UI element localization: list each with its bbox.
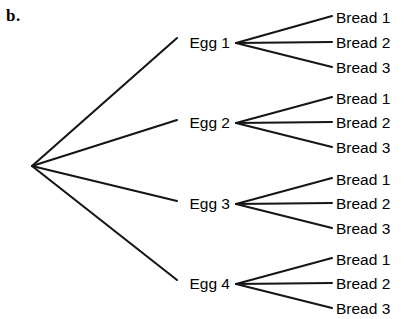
branch-egg-4-bread-2 xyxy=(236,283,332,284)
branch-root-egg-1 xyxy=(32,38,177,166)
branch-egg-1-bread-2 xyxy=(236,42,332,43)
branch-egg-2-bread-2 xyxy=(236,122,332,123)
node-egg-3-bread-1: Bread 1 xyxy=(336,172,390,188)
node-egg-2-bread-1: Bread 1 xyxy=(336,91,390,107)
branch-egg-1-bread-3 xyxy=(236,43,332,67)
node-egg-4-bread-2: Bread 2 xyxy=(336,276,390,292)
node-egg-4: Egg 4 xyxy=(180,276,230,292)
node-egg-4-bread-3: Bread 3 xyxy=(336,301,390,317)
node-egg-1-bread-1: Bread 1 xyxy=(336,10,390,26)
panel-label: b. xyxy=(6,6,21,26)
branch-egg-2-bread-1 xyxy=(236,97,332,123)
node-egg-2: Egg 2 xyxy=(180,115,230,131)
node-egg-1-bread-3: Bread 3 xyxy=(336,60,390,76)
node-egg-1-bread-2: Bread 2 xyxy=(336,35,390,51)
node-egg-3: Egg 3 xyxy=(180,196,230,212)
branch-egg-3-bread-3 xyxy=(236,204,332,228)
node-egg-1: Egg 1 xyxy=(180,35,230,51)
branch-egg-4-bread-1 xyxy=(236,258,332,284)
tree-diagram-canvas: b. Egg 1 Egg 2 Egg 3 Egg 4 Bread 1 Bread… xyxy=(0,0,411,319)
node-egg-3-bread-2: Bread 2 xyxy=(336,196,390,212)
node-egg-4-bread-1: Bread 1 xyxy=(336,252,390,268)
branch-root-egg-2 xyxy=(32,120,177,166)
node-egg-2-bread-3: Bread 3 xyxy=(336,140,390,156)
node-egg-3-bread-3: Bread 3 xyxy=(336,221,390,237)
node-egg-2-bread-2: Bread 2 xyxy=(336,115,390,131)
branch-egg-2-bread-3 xyxy=(236,123,332,147)
branch-egg-1-bread-1 xyxy=(236,16,332,43)
branch-egg-3-bread-1 xyxy=(236,178,332,204)
branch-egg-3-bread-2 xyxy=(236,203,332,204)
branch-egg-4-bread-3 xyxy=(236,284,332,308)
